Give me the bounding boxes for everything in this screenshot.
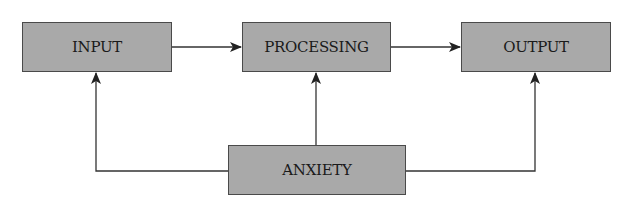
node-anxiety-label: ANXIETY <box>282 161 351 179</box>
arrow-anxiety-to-input <box>96 73 228 171</box>
node-input: INPUT <box>22 22 172 72</box>
node-output: OUTPUT <box>461 22 611 72</box>
flow-diagram: INPUT PROCESSING OUTPUT ANXIETY <box>0 0 635 202</box>
node-processing-label: PROCESSING <box>264 38 368 56</box>
node-anxiety: ANXIETY <box>228 145 406 195</box>
node-output-label: OUTPUT <box>503 38 569 56</box>
node-processing: PROCESSING <box>242 22 391 72</box>
node-input-label: INPUT <box>72 38 122 56</box>
arrow-anxiety-to-output <box>406 73 535 171</box>
